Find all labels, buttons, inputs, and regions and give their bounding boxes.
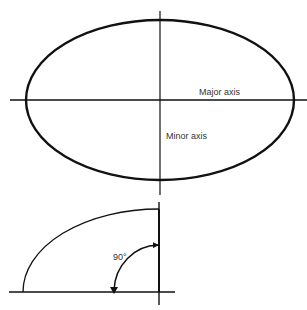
ellipse-figure: Major axis Minor axis bbox=[10, 11, 307, 195]
major-axis-label: Major axis bbox=[199, 87, 241, 97]
quadrant-figure: 90° bbox=[9, 202, 175, 305]
diagram-canvas: Major axis Minor axis 90° bbox=[0, 0, 307, 310]
angle-label: 90° bbox=[113, 252, 127, 262]
arrowhead-bottom-icon bbox=[110, 287, 118, 294]
minor-axis-label: Minor axis bbox=[166, 131, 208, 141]
